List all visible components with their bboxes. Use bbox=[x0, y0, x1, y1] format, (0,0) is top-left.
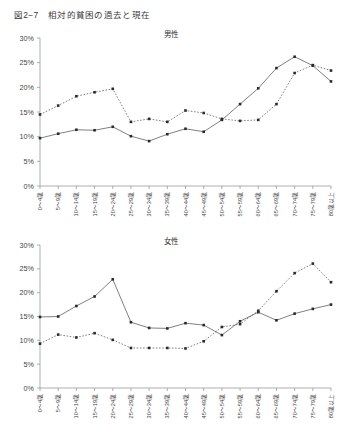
x-axis-tick-label: 15〜19歳 bbox=[91, 394, 98, 418]
x-axis-tick-label: 60〜64歳 bbox=[254, 394, 261, 418]
data-point-marker bbox=[93, 332, 96, 335]
data-point-marker bbox=[57, 315, 60, 318]
data-point-marker bbox=[221, 326, 224, 329]
data-point-marker bbox=[111, 278, 114, 281]
data-point-marker bbox=[166, 347, 169, 350]
data-point-marker bbox=[130, 121, 133, 124]
x-axis-tick-label: 10〜14歳 bbox=[72, 394, 79, 418]
x-axis-tick-label: 35〜39歳 bbox=[163, 394, 170, 418]
data-point-marker bbox=[330, 80, 333, 83]
data-point-marker bbox=[57, 132, 60, 135]
y-axis-tick-label: 5% bbox=[24, 157, 35, 166]
x-axis-tick-label: 40〜44歳 bbox=[182, 192, 189, 216]
x-axis-tick-label: 0〜4歳 bbox=[36, 394, 43, 412]
data-point-marker bbox=[39, 137, 42, 140]
data-point-marker bbox=[312, 64, 315, 67]
x-axis-tick-label: 80歳以上 bbox=[327, 394, 334, 418]
data-point-marker bbox=[312, 308, 315, 311]
line-chart-female: 0%5%10%15%20%25%30%0〜4歳5〜9歳10〜14歳15〜19歳2… bbox=[0, 233, 343, 432]
data-point-marker bbox=[93, 295, 96, 298]
x-axis-tick-label: 75〜79歳 bbox=[309, 394, 316, 418]
page-title: 図2−7 相対的貧困の過去と現在 bbox=[14, 8, 150, 20]
y-axis-tick-label: 10% bbox=[20, 132, 35, 141]
data-point-marker bbox=[275, 319, 278, 322]
y-axis-tick-label: 15% bbox=[20, 312, 35, 321]
x-axis-tick-label: 55〜59歳 bbox=[236, 394, 243, 418]
data-point-marker bbox=[312, 262, 315, 265]
data-point-marker bbox=[239, 323, 242, 326]
x-axis-tick-label: 5〜9歳 bbox=[54, 192, 61, 210]
data-point-marker bbox=[130, 347, 133, 350]
data-point-marker bbox=[202, 340, 205, 343]
data-point-marker bbox=[39, 342, 42, 345]
data-point-marker bbox=[130, 135, 133, 138]
data-point-marker bbox=[239, 120, 242, 123]
data-point-marker bbox=[293, 72, 296, 75]
data-point-marker bbox=[57, 104, 60, 107]
data-point-marker bbox=[39, 113, 42, 116]
x-axis-tick-label: 45〜49歳 bbox=[200, 192, 207, 216]
x-axis-tick-label: 30〜34歳 bbox=[145, 394, 152, 418]
x-axis-tick-label: 10〜14歳 bbox=[72, 192, 79, 216]
y-axis-tick-label: 20% bbox=[20, 288, 35, 297]
x-axis-tick-label: 60〜64歳 bbox=[254, 192, 261, 216]
data-point-marker bbox=[184, 127, 187, 130]
data-series-line bbox=[40, 279, 331, 335]
data-point-marker bbox=[75, 95, 78, 98]
data-point-marker bbox=[202, 130, 205, 133]
data-point-marker bbox=[111, 339, 114, 342]
y-axis-tick-label: 25% bbox=[20, 58, 35, 67]
data-point-marker bbox=[75, 336, 78, 339]
data-point-marker bbox=[257, 119, 260, 122]
chart-panel-female: 女性 0%5%10%15%20%25%30%0〜4歳5〜9歳10〜14歳15〜1… bbox=[0, 233, 343, 432]
y-axis-tick-label: 15% bbox=[20, 108, 35, 117]
y-axis-tick-label: 30% bbox=[20, 34, 35, 43]
data-point-marker bbox=[293, 55, 296, 58]
data-point-marker bbox=[202, 324, 205, 327]
data-point-marker bbox=[130, 321, 133, 324]
data-point-marker bbox=[184, 109, 187, 112]
x-axis-tick-label: 15〜19歳 bbox=[91, 192, 98, 216]
x-axis-tick-label: 50〜54歳 bbox=[218, 394, 225, 418]
data-point-marker bbox=[275, 290, 278, 293]
data-point-marker bbox=[293, 312, 296, 315]
data-point-marker bbox=[75, 305, 78, 308]
x-axis-tick-label: 35〜39歳 bbox=[163, 192, 170, 216]
data-point-marker bbox=[257, 87, 260, 90]
x-axis-tick-label: 80歳以上 bbox=[327, 192, 334, 216]
data-point-marker bbox=[239, 103, 242, 106]
x-axis-tick-label: 50〜54歳 bbox=[218, 192, 225, 216]
x-axis-tick-label: 30〜34歳 bbox=[145, 192, 152, 216]
data-point-marker bbox=[166, 327, 169, 330]
x-axis-tick-label: 5〜9歳 bbox=[54, 394, 61, 412]
data-point-marker bbox=[330, 281, 333, 284]
x-axis-tick-label: 25〜29歳 bbox=[127, 192, 134, 216]
x-axis-tick-label: 65〜69歳 bbox=[272, 394, 279, 418]
data-point-marker bbox=[184, 322, 187, 325]
data-point-marker bbox=[221, 334, 224, 337]
data-series-line bbox=[40, 264, 331, 349]
data-point-marker bbox=[148, 140, 151, 143]
data-point-marker bbox=[39, 316, 42, 319]
chart-panel-male: 男性 0%5%10%15%20%25%30%0〜4歳5〜9歳10〜14歳15〜1… bbox=[0, 26, 343, 231]
x-axis-tick-label: 0〜4歳 bbox=[36, 192, 43, 210]
x-axis-tick-label: 45〜49歳 bbox=[200, 394, 207, 418]
x-axis-tick-label: 40〜44歳 bbox=[182, 394, 189, 418]
x-axis-tick-label: 25〜29歳 bbox=[127, 394, 134, 418]
data-point-marker bbox=[202, 112, 205, 115]
x-axis-tick-label: 70〜74歳 bbox=[291, 192, 298, 216]
line-chart-male: 0%5%10%15%20%25%30%0〜4歳5〜9歳10〜14歳15〜19歳2… bbox=[0, 26, 343, 231]
data-point-marker bbox=[257, 309, 260, 312]
data-point-marker bbox=[166, 133, 169, 136]
x-axis-tick-label: 70〜74歳 bbox=[291, 394, 298, 418]
y-axis-tick-label: 30% bbox=[20, 241, 35, 250]
data-point-marker bbox=[166, 121, 169, 124]
y-axis-tick-label: 5% bbox=[24, 360, 35, 369]
x-axis-tick-label: 20〜24歳 bbox=[109, 394, 116, 418]
data-point-marker bbox=[111, 88, 114, 91]
data-point-marker bbox=[275, 67, 278, 70]
x-axis-tick-label: 20〜24歳 bbox=[109, 192, 116, 216]
data-point-marker bbox=[239, 320, 242, 323]
data-point-marker bbox=[184, 347, 187, 350]
y-axis-tick-label: 25% bbox=[20, 264, 35, 273]
